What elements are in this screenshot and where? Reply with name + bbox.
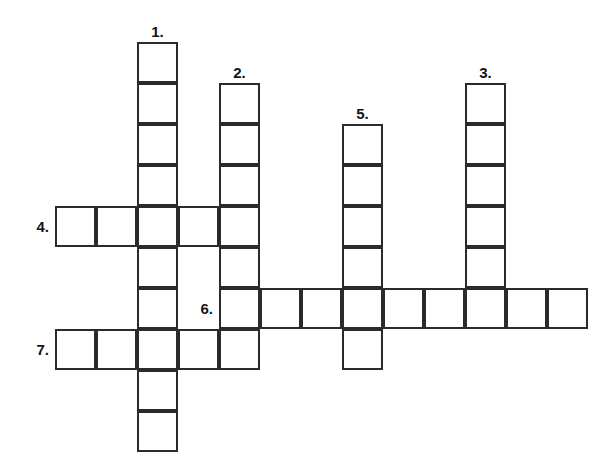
crossword-cell[interactable] bbox=[465, 83, 506, 124]
clue-number-3: 3. bbox=[465, 65, 506, 80]
crossword-cell[interactable] bbox=[342, 288, 383, 329]
crossword-cell[interactable] bbox=[465, 165, 506, 206]
crossword-cell[interactable] bbox=[465, 206, 506, 247]
crossword-cell[interactable] bbox=[96, 329, 137, 370]
crossword-cell[interactable] bbox=[178, 329, 219, 370]
crossword-cell[interactable] bbox=[342, 329, 383, 370]
crossword-cell[interactable] bbox=[219, 124, 260, 165]
crossword-cell[interactable] bbox=[137, 288, 178, 329]
crossword-cell[interactable] bbox=[219, 329, 260, 370]
crossword-cell[interactable] bbox=[342, 165, 383, 206]
crossword-cell[interactable] bbox=[424, 288, 465, 329]
crossword-grid: 1.2.3.4.5.6.7. bbox=[0, 0, 605, 462]
crossword-cell[interactable] bbox=[137, 206, 178, 247]
clue-number-4: 4. bbox=[23, 219, 49, 234]
crossword-cell[interactable] bbox=[219, 247, 260, 288]
clue-number-6: 6. bbox=[187, 301, 213, 316]
crossword-cell[interactable] bbox=[137, 411, 178, 452]
crossword-cell[interactable] bbox=[506, 288, 547, 329]
clue-number-1: 1. bbox=[137, 24, 178, 39]
crossword-cell[interactable] bbox=[465, 124, 506, 165]
crossword-cell[interactable] bbox=[137, 329, 178, 370]
crossword-cell[interactable] bbox=[55, 329, 96, 370]
crossword-cell[interactable] bbox=[383, 288, 424, 329]
crossword-cell[interactable] bbox=[178, 206, 219, 247]
crossword-cell[interactable] bbox=[137, 83, 178, 124]
crossword-cell[interactable] bbox=[342, 124, 383, 165]
crossword-cell[interactable] bbox=[342, 206, 383, 247]
clue-number-7: 7. bbox=[23, 342, 49, 357]
crossword-cell[interactable] bbox=[465, 247, 506, 288]
crossword-cell[interactable] bbox=[96, 206, 137, 247]
crossword-cell[interactable] bbox=[137, 124, 178, 165]
crossword-cell[interactable] bbox=[301, 288, 342, 329]
crossword-cell[interactable] bbox=[219, 83, 260, 124]
crossword-cell[interactable] bbox=[55, 206, 96, 247]
crossword-cell[interactable] bbox=[547, 288, 588, 329]
crossword-cell[interactable] bbox=[219, 206, 260, 247]
crossword-cell[interactable] bbox=[465, 288, 506, 329]
crossword-cell[interactable] bbox=[137, 247, 178, 288]
crossword-cell[interactable] bbox=[219, 165, 260, 206]
crossword-cell[interactable] bbox=[342, 247, 383, 288]
crossword-cell[interactable] bbox=[260, 288, 301, 329]
crossword-cell[interactable] bbox=[137, 370, 178, 411]
crossword-cell[interactable] bbox=[137, 165, 178, 206]
clue-number-2: 2. bbox=[219, 65, 260, 80]
crossword-cell[interactable] bbox=[137, 42, 178, 83]
clue-number-5: 5. bbox=[342, 106, 383, 121]
crossword-cell[interactable] bbox=[219, 288, 260, 329]
